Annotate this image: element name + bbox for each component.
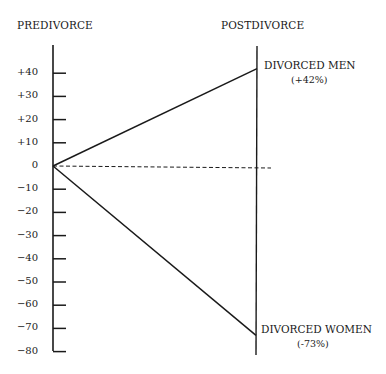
right-axis-line [256,46,257,355]
women-series-line [53,166,256,335]
men-series-label: DIVORCED MEN [264,59,356,71]
baseline-dashed [53,166,271,168]
men-series-value: (+42%) [291,74,328,85]
men-series-line [53,69,257,166]
y-ticks [53,73,66,351]
chart-plot-area [0,0,386,374]
women-series-label: DIVORCED WOMEN [261,323,372,335]
women-series-value: (-73%) [297,338,329,349]
